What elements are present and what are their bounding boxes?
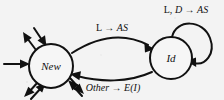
edge-label-id-self-loop: L, D → AS — [164, 4, 208, 15]
state-diagram-figure: New Id L → AS Other → E(I) L, D → AS — [0, 0, 224, 100]
diagram-canvas: New Id L → AS Other → E(I) L, D → AS — [0, 0, 224, 100]
free-arrow-in-upper-left — [34, 28, 47, 47]
state-id-label: Id — [165, 52, 176, 64]
edge-label-id-to-new-part-2: E(I) — [123, 82, 141, 94]
state-new[interactable]: New — [29, 44, 73, 88]
edge-label-id-self-loop-part-2: → — [185, 4, 198, 15]
transition-new-to-id — [72, 37, 155, 53]
free-arrow-out-upper-left — [23, 32, 36, 50]
free-arrow-in-left — [4, 59, 30, 68]
edge-label-id-self-loop-part-0: L, — [164, 4, 175, 15]
transition-id-to-new — [70, 71, 152, 80]
edge-label-new-to-id-part-0: L — [96, 22, 102, 33]
edge-label-id-self-loop-part-3: AS — [196, 4, 208, 15]
edge-label-id-to-new-part-1: → — [112, 82, 125, 93]
edge-label-id-to-new-part-0: Other — [86, 82, 109, 93]
edge-label-new-to-id-part-2: AS — [116, 22, 128, 33]
edge-label-new-to-id: L → AS — [96, 22, 128, 33]
edge-label-new-to-id-part-1: → — [104, 22, 117, 33]
edge-label-id-to-new: Other → E(I) — [86, 82, 141, 94]
state-new-label: New — [40, 60, 61, 72]
edge-label-id-self-loop-part-1: D — [174, 4, 183, 15]
state-id[interactable]: Id — [150, 37, 192, 79]
